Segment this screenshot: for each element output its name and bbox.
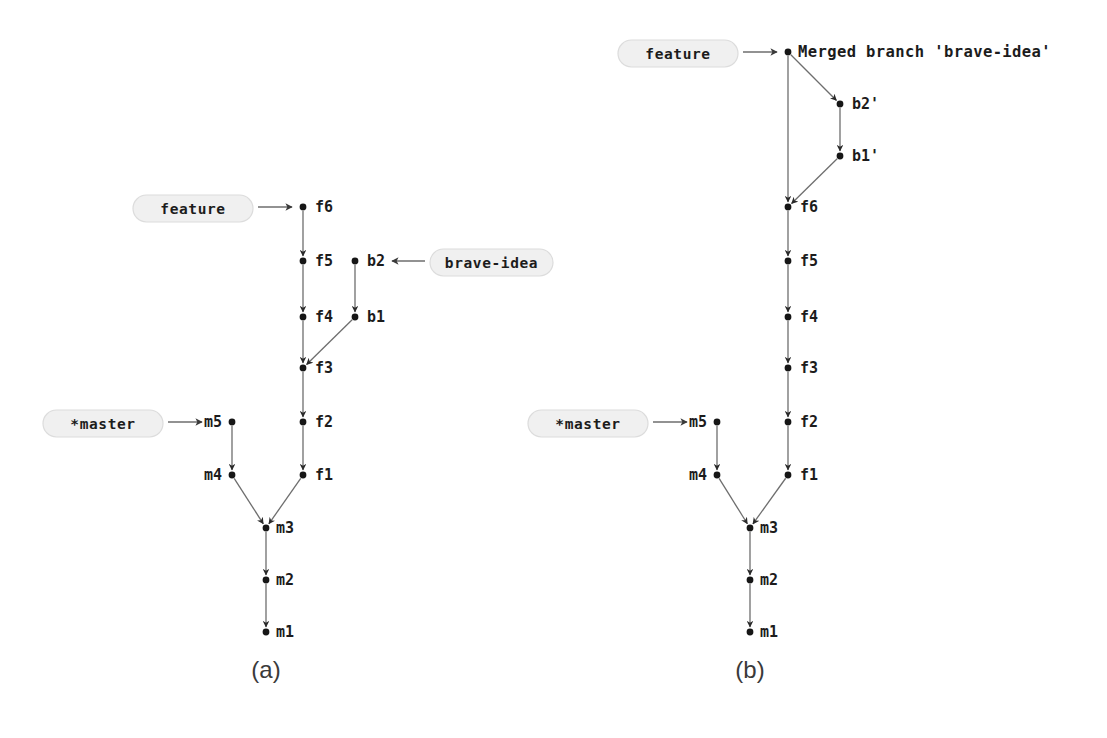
commit-label: f6 (315, 198, 333, 216)
commit-dot (785, 419, 792, 426)
commit-label: f3 (800, 359, 818, 377)
commit-node-f4[interactable]: f4 (785, 308, 818, 326)
commit-dot (837, 153, 844, 160)
commit-node-m5[interactable]: m5 (204, 413, 235, 431)
commit-label: m1 (276, 623, 294, 641)
commit-dot (352, 258, 359, 265)
commit-dot (229, 419, 236, 426)
figure-canvas: feature*masterbrave-ideafeature*master m… (0, 0, 1107, 738)
commit-node-b1p[interactable]: b1' (837, 147, 879, 165)
commit-node-f1[interactable]: f1 (300, 466, 333, 484)
commit-label: m2 (276, 571, 294, 589)
commit-label: b2' (852, 95, 879, 113)
commit-node-m5[interactable]: m5 (689, 413, 720, 431)
commit-label: m2 (760, 571, 778, 589)
commit-node-f1[interactable]: f1 (785, 466, 818, 484)
commit-label: m3 (276, 519, 294, 537)
commit-node-f3[interactable]: f3 (300, 359, 333, 377)
edges-layer (232, 55, 840, 627)
commit-label: b2 (367, 252, 385, 270)
commit-dot (300, 258, 307, 265)
commit-label: f2 (315, 413, 333, 431)
commit-node-m2[interactable]: m2 (263, 571, 294, 589)
commit-node-m3[interactable]: m3 (263, 519, 294, 537)
commit-dot (714, 472, 721, 479)
commit-dot (837, 101, 844, 108)
commit-dot (747, 577, 754, 584)
commit-label: f5 (800, 252, 818, 270)
commit-edge-f1-to-m3 (269, 478, 301, 524)
commit-dot (785, 365, 792, 372)
commit-node-f5[interactable]: f5 (300, 252, 333, 270)
branch-ref-feature-a[interactable]: feature (133, 195, 292, 222)
branch-ref-master-a[interactable]: *master (43, 410, 202, 437)
merge-commit-message: Merged branch 'brave-idea' (798, 43, 1051, 61)
commit-label: f1 (315, 466, 333, 484)
commit-dot (300, 365, 307, 372)
commit-edge-m4-to-m3 (234, 478, 263, 523)
commit-node-b2p[interactable]: b2' (837, 95, 879, 113)
branch-ref-label: feature (160, 201, 225, 217)
commit-node-f4[interactable]: f4 (300, 308, 333, 326)
branch-ref-label: *master (70, 416, 135, 432)
commit-node-merge[interactable]: Merged branch 'brave-idea' (785, 43, 1051, 61)
commit-dot (263, 525, 270, 532)
branch-ref-label: *master (555, 416, 620, 432)
panel-caption-b: (b) (735, 656, 764, 683)
branch-ref-feature-b[interactable]: feature (618, 40, 777, 67)
commit-node-b1[interactable]: b1 (352, 308, 385, 326)
commit-edge-merge-to-b2p (791, 55, 837, 101)
commit-label: b1 (367, 308, 385, 326)
commit-label: f4 (800, 308, 818, 326)
commit-node-m1[interactable]: m1 (263, 623, 294, 641)
commit-node-f6[interactable]: f6 (300, 198, 333, 216)
commit-dot (263, 629, 270, 636)
commit-dot (300, 472, 307, 479)
commit-node-m1[interactable]: m1 (747, 623, 778, 641)
commit-node-f2[interactable]: f2 (785, 413, 818, 431)
git-graph-svg: feature*masterbrave-ideafeature*master m… (0, 0, 1107, 738)
commit-node-f5[interactable]: f5 (785, 252, 818, 270)
commit-dot (300, 314, 307, 321)
commit-label: f6 (800, 198, 818, 216)
commit-node-m3[interactable]: m3 (747, 519, 778, 537)
commit-dot (300, 419, 307, 426)
commit-dot (785, 314, 792, 321)
commit-dot (785, 472, 792, 479)
commit-label: f5 (315, 252, 333, 270)
commit-label: m4 (689, 466, 707, 484)
commit-dot (747, 525, 754, 532)
panel-captions-layer: (a)(b) (251, 656, 764, 683)
commit-dot (785, 204, 792, 211)
commit-nodes-layer: m1m2m3m4m5f1f2f3f4f5f6b1b2m1m2m3m4m5f1f2… (204, 43, 1051, 641)
commit-node-f6[interactable]: f6 (785, 198, 818, 216)
branch-ref-label: feature (645, 46, 710, 62)
commit-node-m4[interactable]: m4 (204, 466, 235, 484)
commit-node-f2[interactable]: f2 (300, 413, 333, 431)
commit-label: f3 (315, 359, 333, 377)
panel-caption-a: (a) (251, 656, 280, 683)
commit-dot (352, 314, 359, 321)
commit-label: f2 (800, 413, 818, 431)
commit-label: m5 (204, 413, 222, 431)
branch-ref-brave-idea-a[interactable]: brave-idea (392, 249, 553, 276)
commit-dot (785, 258, 792, 265)
commit-dot (300, 204, 307, 211)
commit-node-m2[interactable]: m2 (747, 571, 778, 589)
commit-dot (229, 472, 236, 479)
branch-refs-layer: feature*masterbrave-ideafeature*master (43, 40, 777, 437)
commit-edge-m4-to-m3 (719, 478, 747, 523)
commit-node-m4[interactable]: m4 (689, 466, 720, 484)
commit-dot (714, 419, 721, 426)
commit-label: f1 (800, 466, 818, 484)
commit-label: m3 (760, 519, 778, 537)
commit-edge-f1-to-m3 (753, 478, 786, 524)
commit-node-f3[interactable]: f3 (785, 359, 818, 377)
commit-label: m1 (760, 623, 778, 641)
commit-node-b2[interactable]: b2 (352, 252, 385, 270)
commit-label: m5 (689, 413, 707, 431)
commit-dot (263, 577, 270, 584)
branch-ref-master-b[interactable]: *master (528, 410, 687, 437)
branch-ref-label: brave-idea (445, 255, 538, 271)
commit-dot (747, 629, 754, 636)
